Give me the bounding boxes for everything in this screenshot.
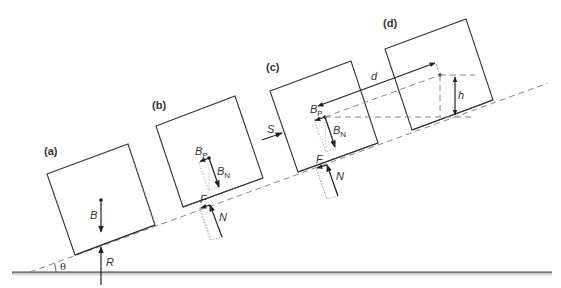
- incline-line: [30, 83, 548, 272]
- h-label: h: [458, 89, 464, 101]
- f-label-b: F: [200, 193, 208, 205]
- bp-label-b: BP: [195, 145, 208, 160]
- panel-c: (c) S BP BN F N: [262, 61, 378, 199]
- n-label-c: N: [336, 170, 344, 182]
- angle-theta: θ: [55, 261, 67, 272]
- panel-a: (a) B: [44, 144, 155, 255]
- r-label: R: [106, 256, 114, 268]
- s-label: S: [267, 123, 275, 135]
- panel-a-label: (a): [44, 145, 58, 157]
- panel-b-label: (b): [152, 99, 166, 111]
- panel-d-label: (d): [383, 17, 397, 29]
- n-label-b: N: [219, 211, 227, 223]
- bn-label-c: BN: [333, 124, 346, 139]
- b-label-a: B: [90, 209, 97, 221]
- bn-label-b: BN: [217, 165, 230, 180]
- theta-label: θ: [60, 261, 66, 272]
- inclined-plane-diagram: θ R (a) B (b) BP BN F N (c): [0, 0, 561, 288]
- ground: [12, 272, 552, 278]
- d-label: d: [371, 70, 378, 82]
- panel-b: (b) BP BN F N: [152, 96, 263, 240]
- reaction-force-r: R: [101, 247, 114, 285]
- panel-c-label: (c): [266, 61, 280, 73]
